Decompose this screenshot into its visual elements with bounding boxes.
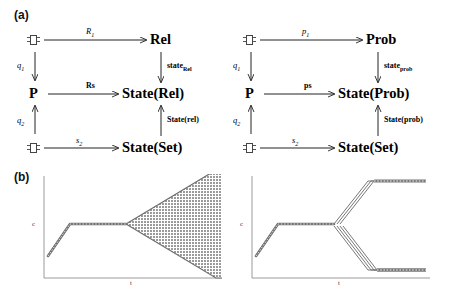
trajectory-up-3 [340,181,426,224]
edge-label-p1: p1 [302,27,309,38]
chart-reachability-cone: c t [30,174,226,294]
trajectory-down-4 [343,226,426,270]
edge-label-s2-left: s2 [76,136,82,147]
figure-root: (a) [0,0,464,297]
edge-label-q2-left: q2 [17,116,24,127]
node-state-rel: State(Rel) [122,86,184,101]
panel-label-b: (b) [14,170,29,184]
chart-right-svg [238,174,434,294]
edge-label-q1-left: q1 [17,61,24,72]
diagram-left-arrows [0,0,232,162]
edge-label-state-rel-sub: stateRel [167,62,192,72]
edge-label-state-prob-sub: stateprob [384,62,412,72]
object-glyph-bottom-left [27,141,40,154]
chart-branching-trajectories: c t [238,174,434,294]
x-axis-label-left: t [130,279,132,286]
object-glyph-bottom-left-right-diagram [243,141,256,154]
x-axis-label-right: t [338,279,340,286]
initial-trajectory-left [48,224,126,256]
y-axis-label-right: c [240,220,243,227]
edge-label-q1-right: q1 [233,61,240,72]
node-prob: Prob [366,32,396,47]
edge-label-state-prob-lower: State(prob) [384,116,423,124]
common-stem-right [256,224,334,256]
edge-label-rs: Rs [86,82,95,90]
node-state-set-right: State(Set) [338,140,398,155]
edge-label-state-rel-lower: State(rel) [167,116,199,124]
y-axis-label-left: c [32,220,35,227]
node-state-set-left: State(Set) [122,140,182,155]
trajectory-down-2 [337,226,426,270]
chart-left-svg [30,174,226,294]
edge-label-r1: R1 [86,27,94,38]
reachable-set-area [126,174,222,278]
node-p-left: P [29,86,38,101]
node-p-right: P [245,86,254,101]
object-glyph-top-left [27,33,40,46]
trajectory-down-3 [340,226,426,270]
diagram-probabilistic: Prob P State(Prob) State(Set) p1 q1 q2 p… [228,0,464,162]
diagram-relational: Rel P State(Rel) State(Set) R1 q1 q2 Rs … [0,0,232,162]
node-state-prob: State(Prob) [338,86,409,101]
edge-label-q2-right: q2 [233,116,240,127]
object-glyph-top-left-right-diagram [243,33,256,46]
trajectory-up-1 [334,181,426,224]
node-rel: Rel [150,32,171,47]
edge-label-s2-right: s2 [292,136,298,147]
trajectory-up-2 [337,181,426,224]
diagram-right-arrows [228,0,464,162]
edge-label-ps: ps [304,82,312,90]
